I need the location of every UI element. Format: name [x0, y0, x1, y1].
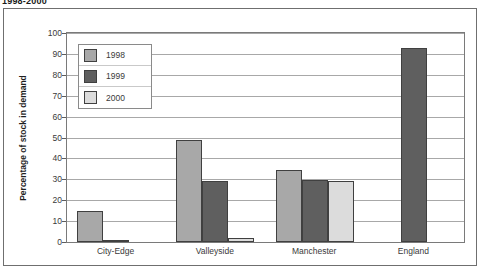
chart-title: 1998-2000 — [2, 0, 47, 6]
legend-swatch-1999 — [84, 70, 97, 83]
y-axis-tick-label: 40 — [36, 153, 62, 163]
bar-city-edge-1998 — [77, 211, 103, 242]
y-axis-title: Percentage of stock in demand — [18, 63, 28, 213]
x-axis-label-manchester: Manchester — [265, 246, 364, 256]
y-axis-tick-label: 100 — [36, 28, 62, 38]
gridline — [67, 33, 464, 34]
bar-valleyside-1998 — [176, 140, 202, 242]
legend-item-1999: 1999 — [79, 66, 151, 87]
y-axis-tick-label: 60 — [36, 112, 62, 122]
y-axis-tick-label: 0 — [36, 237, 62, 247]
bar-manchester-1999 — [302, 180, 328, 242]
y-axis-tick-label: 20 — [36, 195, 62, 205]
y-axis-tick-label: 80 — [36, 70, 62, 80]
bar-valleyside-1999 — [202, 181, 228, 242]
y-axis-tick-label: 10 — [36, 216, 62, 226]
bar-valleyside-2000 — [228, 238, 254, 242]
bar-manchester-2000 — [328, 181, 354, 242]
legend-label-1999: 1999 — [106, 71, 125, 81]
chart-legend: 199819992000 — [78, 44, 152, 109]
legend-swatch-1998 — [84, 49, 97, 62]
x-axis-label-england: England — [364, 246, 463, 256]
legend-swatch-2000 — [84, 91, 97, 104]
legend-label-1998: 1998 — [106, 50, 125, 60]
y-axis-tick-label: 50 — [36, 133, 62, 143]
legend-item-2000: 2000 — [79, 87, 151, 108]
x-axis-label-city-edge: City-Edge — [66, 246, 165, 256]
y-axis-tick-label: 70 — [36, 91, 62, 101]
bar-england-1999 — [401, 48, 427, 242]
x-axis-category-labels: City-EdgeValleysideManchesterEngland — [66, 246, 465, 262]
bar-manchester-1998 — [276, 170, 302, 242]
y-axis-tick-label: 30 — [36, 174, 62, 184]
y-axis-tick-label: 90 — [36, 49, 62, 59]
bar-city-edge-1999 — [103, 240, 129, 242]
legend-item-1998: 1998 — [79, 45, 151, 66]
y-axis-tick-labels: 0102030405060708090100 — [34, 32, 62, 243]
legend-label-2000: 2000 — [106, 93, 125, 103]
chart-figure: 1998-2000 Percentage of stock in demand … — [0, 0, 486, 275]
x-axis-label-valleyside: Valleyside — [165, 246, 264, 256]
